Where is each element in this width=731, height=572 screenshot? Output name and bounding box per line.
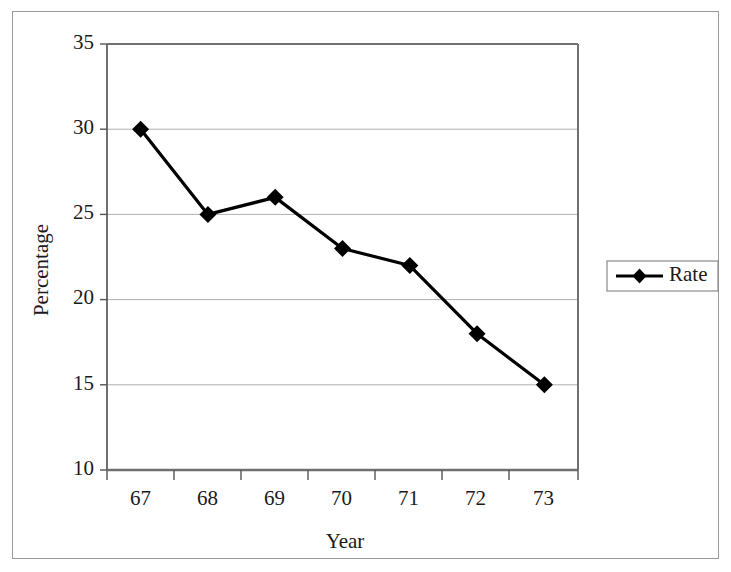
x-tick-label-68: 68 — [197, 486, 218, 510]
chart-legend[interactable]: Rate — [607, 261, 718, 291]
x-axis-title: Year — [326, 529, 365, 553]
line-chart: 35 30 25 20 15 10 67 68 69 70 71 72 73 — [0, 0, 731, 572]
x-axis-tick-labels: 67 68 69 70 71 72 73 — [130, 486, 554, 510]
x-tick-label-71: 71 — [398, 486, 419, 510]
y-axis-tick-labels: 35 30 25 20 15 10 — [73, 30, 94, 480]
y-tick-label-15: 15 — [73, 371, 94, 395]
x-tick-label-73: 73 — [533, 486, 554, 510]
y-tick-label-10: 10 — [73, 456, 94, 480]
x-tick-label-70: 70 — [331, 486, 352, 510]
x-tick-label-67: 67 — [130, 486, 151, 510]
y-tick-label-35: 35 — [73, 30, 94, 54]
y-axis-title: Percentage — [29, 224, 53, 316]
x-tick-label-72: 72 — [465, 486, 486, 510]
y-tick-label-20: 20 — [73, 285, 94, 309]
y-tick-label-25: 25 — [73, 200, 94, 224]
x-tick-label-69: 69 — [264, 486, 285, 510]
plot-area-background — [107, 44, 578, 470]
x-axis-ticks — [107, 470, 578, 480]
chart-page: 35 30 25 20 15 10 67 68 69 70 71 72 73 — [0, 0, 731, 572]
legend-label-rate: Rate — [669, 262, 707, 286]
y-axis-ticks — [100, 44, 107, 470]
y-tick-label-30: 30 — [73, 115, 94, 139]
